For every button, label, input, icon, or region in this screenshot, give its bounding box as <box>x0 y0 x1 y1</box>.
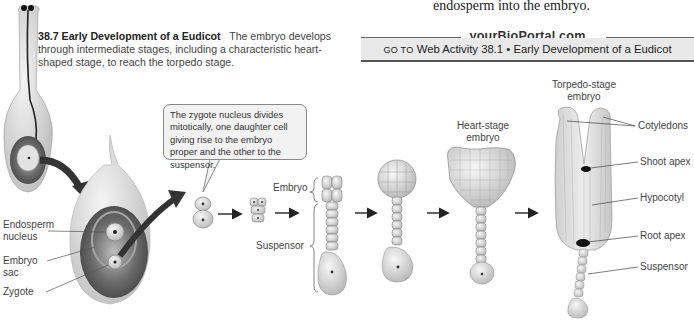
torpedo-stage <box>555 107 612 318</box>
label-zygote: Zygote <box>3 286 34 297</box>
eudicot-development-illustration <box>0 0 694 323</box>
ovule-drawing <box>70 135 150 304</box>
label-suspensor: Suspensor <box>256 240 304 251</box>
label-torpedo-stage-line2: embryo <box>544 91 624 102</box>
label-torpedo-stage-line1: Torpedo-stage <box>544 79 624 90</box>
zygote-division-callout: The zygote nucleus divides mitotically, … <box>163 104 307 160</box>
heart-stage <box>447 147 515 284</box>
embryo-sac <box>80 206 148 298</box>
label-heart-stage-line2: embryo <box>453 132 513 143</box>
label-embryo-sac-line2: sac <box>3 267 19 278</box>
label-shoot-apex: Shoot apex <box>640 156 691 167</box>
label-suspensor-torpedo: Suspensor <box>640 261 688 272</box>
label-heart-stage-line1: Heart-stage <box>453 120 513 131</box>
label-endosperm-nucleus-line2: nucleus <box>3 231 37 242</box>
four-cell-stage <box>250 198 266 222</box>
label-hypocotyl: Hypocotyl <box>640 192 684 203</box>
label-cotyledons: Cotyledons <box>638 120 688 131</box>
two-cell-stage <box>193 197 213 228</box>
pistil-drawing <box>4 5 53 192</box>
globular-stage <box>378 160 416 282</box>
label-endosperm-nucleus-line1: Endosperm <box>3 219 54 230</box>
label-embryo-sac-line1: Embryo <box>3 255 37 266</box>
label-root-apex: Root apex <box>640 230 686 241</box>
filamentous-stage <box>318 176 347 295</box>
label-embryo: Embryo <box>273 182 307 193</box>
